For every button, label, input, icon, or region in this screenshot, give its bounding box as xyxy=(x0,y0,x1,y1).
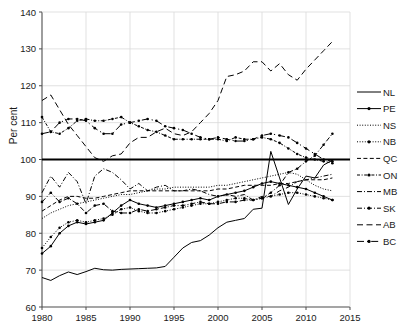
series-marker-on xyxy=(146,129,149,132)
line-chart: 6070809010011012013014019801985199019952… xyxy=(0,0,407,334)
legend-marker-on xyxy=(367,173,370,176)
series-marker-sk xyxy=(217,202,220,205)
series-marker-nb xyxy=(76,219,79,222)
series-marker-sk xyxy=(173,204,176,207)
y-tick-label: 80 xyxy=(25,228,36,239)
series-marker-nb xyxy=(111,214,114,217)
series-marker-sk xyxy=(252,199,255,202)
y-tick-label: 110 xyxy=(21,117,36,128)
series-marker-bc xyxy=(182,129,185,132)
series-marker-on xyxy=(102,119,105,122)
series-marker-bc xyxy=(243,140,246,143)
series-marker-pe xyxy=(129,199,132,202)
series-marker-on xyxy=(138,125,141,128)
series-marker-sk xyxy=(138,208,141,211)
series-marker-sk xyxy=(296,167,299,170)
series-marker-sk xyxy=(322,143,325,146)
x-tick-label: 1990 xyxy=(119,312,140,323)
series-marker-pe xyxy=(270,180,273,183)
series-marker-nb xyxy=(234,197,237,200)
series-marker-pe xyxy=(182,201,185,204)
y-tick-label: 130 xyxy=(20,43,36,54)
series-marker-bc xyxy=(287,136,290,139)
series-marker-sk xyxy=(50,191,53,194)
y-tick-label: 60 xyxy=(25,302,36,313)
series-marker-bc xyxy=(58,121,61,124)
series-marker-pe xyxy=(296,186,299,189)
series-marker-bc xyxy=(322,158,325,161)
series-marker-on xyxy=(287,147,290,150)
series-marker-pe xyxy=(252,186,255,189)
series-marker-sk xyxy=(182,204,185,207)
series-marker-sk xyxy=(164,206,167,209)
series-marker-bc xyxy=(278,134,281,137)
x-tick-label: 2015 xyxy=(339,312,360,323)
series-marker-sk xyxy=(94,204,97,207)
series-marker-on xyxy=(58,132,61,135)
series-marker-nb xyxy=(173,208,176,211)
series-marker-pe xyxy=(234,191,237,194)
series-marker-sk xyxy=(120,212,123,215)
series-marker-bc xyxy=(208,138,211,141)
series-marker-nb xyxy=(129,206,132,209)
series-marker-sk xyxy=(102,202,105,205)
series-marker-sk xyxy=(243,199,246,202)
series-marker-pe xyxy=(305,188,308,191)
chart-figure: Per cent 6070809010011012013014019801985… xyxy=(0,0,407,334)
series-marker-pe xyxy=(199,197,202,200)
x-tick-label: 1980 xyxy=(31,312,52,323)
series-marker-bc xyxy=(155,119,158,122)
series-marker-sk xyxy=(111,210,114,213)
legend-label-nb: NB xyxy=(383,136,396,147)
series-marker-bc xyxy=(331,160,334,163)
series-marker-bc xyxy=(314,153,317,156)
y-tick-label: 120 xyxy=(20,80,36,91)
x-tick-label: 1985 xyxy=(75,312,96,323)
legend-label-mb: MB xyxy=(383,186,397,197)
series-marker-pe xyxy=(146,204,149,207)
series-marker-bc xyxy=(190,132,193,135)
series-marker-sk xyxy=(41,201,44,204)
legend-label-pe: PE xyxy=(383,103,396,114)
series-marker-sk xyxy=(261,197,264,200)
series-marker-on xyxy=(94,119,97,122)
series-marker-on xyxy=(164,134,167,137)
series-marker-bc xyxy=(138,119,141,122)
series-marker-bc xyxy=(129,121,132,124)
series-marker-on xyxy=(111,118,114,121)
series-marker-bc xyxy=(217,136,220,139)
series-marker-sk xyxy=(226,201,229,204)
series-marker-sk xyxy=(208,202,211,205)
series-marker-bc xyxy=(67,118,70,121)
series-marker-pe xyxy=(41,252,44,255)
legend-marker-pe xyxy=(367,107,370,110)
series-marker-bc xyxy=(146,118,149,121)
series-marker-on xyxy=(296,153,299,156)
series-marker-sk xyxy=(85,212,88,215)
series-marker-on xyxy=(41,116,44,119)
y-tick-label: 100 xyxy=(20,154,36,165)
legend-label-qc: QC xyxy=(383,153,397,164)
series-marker-on xyxy=(234,136,237,139)
series-marker-sk xyxy=(305,160,308,163)
legend-label-ns: NS xyxy=(383,120,396,131)
series-marker-bc xyxy=(120,123,123,126)
series-marker-on xyxy=(278,142,281,145)
series-marker-on xyxy=(120,116,123,119)
series-marker-nb xyxy=(305,193,308,196)
series-marker-bc xyxy=(252,138,255,141)
series-marker-nb xyxy=(120,208,123,211)
series-marker-on xyxy=(155,131,158,134)
series-marker-sk xyxy=(129,212,132,215)
series-marker-nb xyxy=(50,236,53,239)
series-marker-nb xyxy=(102,217,105,220)
series-marker-nb xyxy=(67,221,70,224)
series-marker-sk xyxy=(155,208,158,211)
series-marker-sk xyxy=(234,201,237,204)
series-marker-sk xyxy=(76,202,79,205)
series-marker-bc xyxy=(199,136,202,139)
series-marker-on xyxy=(173,138,176,141)
series-marker-bc xyxy=(305,147,308,150)
series-marker-nb xyxy=(58,226,61,229)
y-tick-label: 90 xyxy=(25,191,36,202)
